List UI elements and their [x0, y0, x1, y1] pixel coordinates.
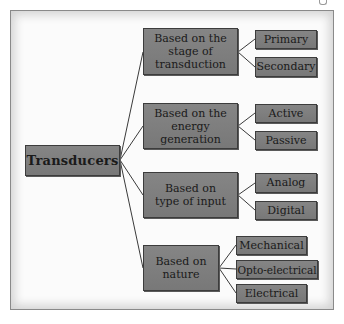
leaf-node-passive: Passive: [255, 131, 317, 150]
leaf-label: Opto-electrical: [237, 264, 316, 276]
leaf-node-mechanical: Mechanical: [236, 236, 307, 255]
category-node-energy: Based on the energy generation: [143, 103, 238, 149]
category-label: Based on type of input: [146, 182, 235, 208]
leaf-label: Primary: [264, 34, 309, 46]
category-label: Based on the energy generation: [146, 107, 235, 146]
leaf-node-secondary: Secondary: [255, 57, 317, 77]
leaf-label: Passive: [266, 135, 307, 147]
leaf-node-primary: Primary: [255, 30, 317, 49]
leaf-node-analog: Analog: [255, 173, 317, 193]
leaf-label: Secondary: [257, 61, 316, 73]
root-label: Transducers: [27, 153, 119, 168]
leaf-node-electrical: Electrical: [236, 284, 307, 303]
leaf-node-opto-electrical: Opto-electrical: [236, 260, 318, 279]
category-node-nature: Based on nature: [143, 245, 219, 291]
category-label: Based on nature: [146, 255, 216, 281]
leaf-label: Analog: [267, 177, 306, 189]
leaf-label: Digital: [267, 205, 304, 217]
leaf-node-active: Active: [255, 104, 317, 123]
category-label: Based on the stage of transduction: [146, 32, 235, 71]
root-node-transducers: Transducers: [25, 145, 120, 176]
leaf-label: Electrical: [245, 288, 299, 300]
category-node-stage: Based on the stage of transduction: [143, 28, 238, 75]
category-node-input: Based on type of input: [143, 172, 238, 218]
leaf-node-digital: Digital: [255, 201, 317, 220]
leaf-label: Mechanical: [239, 240, 303, 252]
leaf-label: Active: [269, 108, 304, 120]
